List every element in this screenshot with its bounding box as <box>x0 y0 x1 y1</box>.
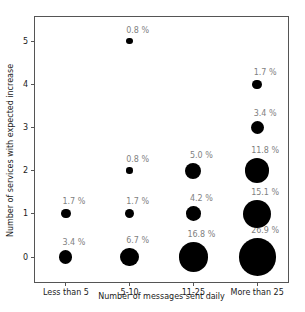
data-bubble <box>251 121 264 134</box>
data-bubble <box>120 248 139 267</box>
data-bubble <box>59 250 72 263</box>
y-tick-mark <box>31 257 34 258</box>
y-tick-label: 0 <box>14 253 28 262</box>
bubble-value-label: 11.8 % <box>251 146 279 155</box>
y-tick-mark <box>31 84 34 85</box>
bubble-value-label: 3.4 % <box>62 238 85 247</box>
bubble-value-label: 3.4 % <box>254 109 277 118</box>
bubble-value-label: 6.7 % <box>126 236 149 245</box>
bubble-value-label: 0.8 % <box>126 155 149 164</box>
y-tick-label: 4 <box>14 80 28 89</box>
data-bubble <box>179 242 208 271</box>
data-bubble <box>252 80 261 89</box>
y-tick-label: 2 <box>14 166 28 175</box>
data-bubble <box>245 158 270 183</box>
bubble-value-label: 0.8 % <box>126 26 149 35</box>
x-tick-mark <box>129 283 130 286</box>
x-tick-label: Less than 5 <box>43 288 89 297</box>
bubble-value-label: 26.9 % <box>251 226 279 235</box>
x-tick-label: More than 25 <box>230 288 283 297</box>
y-tick-label: 5 <box>14 37 28 46</box>
data-bubble <box>185 163 201 179</box>
x-tick-mark <box>65 283 66 286</box>
bubble-value-label: 4.2 % <box>190 194 213 203</box>
bubble-value-label: 1.7 % <box>254 68 277 77</box>
data-bubble <box>61 209 70 218</box>
bubble-value-label: 5.0 % <box>190 151 213 160</box>
y-tick-mark <box>31 170 34 171</box>
y-tick-mark <box>31 213 34 214</box>
bubble-value-label: 1.7 % <box>126 197 149 206</box>
x-tick-label: 5-10 <box>121 288 139 297</box>
y-tick-label: 3 <box>14 123 28 132</box>
bubble-chart-figure: Number of services with expected increas… <box>0 0 305 312</box>
data-bubble <box>243 200 271 228</box>
data-bubble <box>126 38 132 44</box>
bubble-value-label: 15.1 % <box>251 188 279 197</box>
x-tick-mark <box>193 283 194 286</box>
x-tick-mark <box>257 283 258 286</box>
bubble-value-label: 16.8 % <box>187 230 215 239</box>
data-bubble <box>126 167 132 173</box>
y-tick-mark <box>31 127 34 128</box>
y-tick-label: 1 <box>14 209 28 218</box>
data-bubble <box>239 238 276 275</box>
x-tick-label: 11-25 <box>182 288 205 297</box>
data-bubble <box>186 206 201 221</box>
bubble-value-label: 1.7 % <box>62 197 85 206</box>
y-tick-mark <box>31 41 34 42</box>
